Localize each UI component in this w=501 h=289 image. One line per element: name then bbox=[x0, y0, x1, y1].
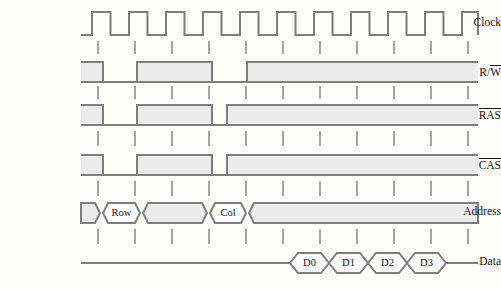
data-cell-label-d0: D0 bbox=[290, 258, 329, 269]
address-bus-cell bbox=[143, 203, 207, 223]
signal-label-overlined-text: CAS bbox=[479, 158, 501, 171]
signal-label-address: Address bbox=[431, 206, 501, 218]
signal-label-ras: RAS bbox=[431, 108, 501, 122]
signal-label-prefix: R/ bbox=[479, 66, 490, 78]
signal-label-rw: R/W bbox=[431, 65, 501, 79]
data-cell-label-d3: D3 bbox=[407, 258, 446, 269]
data-cell-label-d1: D1 bbox=[329, 258, 368, 269]
signal-label-text: Address bbox=[463, 205, 501, 217]
waveform-canvas bbox=[0, 0, 501, 289]
rw-high-block bbox=[137, 62, 212, 82]
data-cell-label-d2: D2 bbox=[368, 258, 407, 269]
clock-waveform bbox=[81, 12, 478, 35]
cas-high-block bbox=[81, 155, 103, 175]
signal-label-overlined-text: RAS bbox=[479, 108, 501, 121]
cas-high-block bbox=[137, 155, 212, 175]
timing-diagram-root: ClockR/WRASCASAddressData RowColD0D1D2D3 bbox=[0, 0, 501, 289]
signal-label-text: Clock bbox=[474, 16, 501, 28]
signal-label-text: Data bbox=[479, 255, 501, 267]
ras-high-block bbox=[137, 105, 212, 125]
signal-label-overlined-text: W bbox=[490, 65, 501, 78]
ras-high-block bbox=[81, 105, 103, 125]
signal-label-clock: Clock bbox=[431, 17, 501, 29]
rw-high-block bbox=[81, 62, 103, 82]
signal-label-cas: CAS bbox=[431, 158, 501, 172]
address-bus-cell bbox=[81, 203, 100, 223]
address-cell-label-row: Row bbox=[103, 208, 140, 219]
address-cell-label-col: Col bbox=[210, 208, 246, 219]
